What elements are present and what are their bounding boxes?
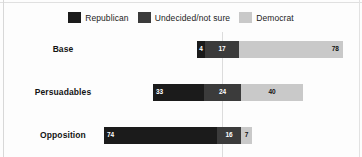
bar-value-base-undecided: 17 [218, 46, 225, 53]
bar-segment-base-democrat[interactable]: 78 [239, 41, 343, 58]
legend-swatch-republican [68, 12, 81, 23]
bar-value-persuadables-undecided: 24 [219, 89, 226, 96]
bar-segment-opposition-democrat[interactable]: 7 [241, 127, 252, 144]
legend-label-republican: Republican [85, 13, 129, 23]
bar-value-opposition-democrat: 7 [245, 132, 249, 139]
bar-value-opposition-undecided: 16 [225, 132, 232, 139]
plot-area: Base 4 17 78 Persuadables 33 [0, 30, 362, 157]
bar-value-base-democrat: 78 [332, 46, 339, 53]
row-label-opposition: Opposition [18, 130, 108, 140]
bar-segment-persuadables-undecided[interactable]: 24 [204, 84, 241, 101]
legend-label-democrat: Democrat [256, 13, 294, 23]
bar-segment-persuadables-republican[interactable]: 33 [153, 84, 204, 101]
page-edge-top [0, 2, 362, 3]
bar-segment-persuadables-democrat[interactable]: 40 [241, 84, 303, 101]
bar-persuadables: 33 24 40 [153, 84, 303, 101]
chart-row-opposition: Opposition 74 16 7 [0, 124, 362, 146]
bar-segment-base-undecided[interactable]: 17 [205, 41, 239, 58]
stacked-bar-chart: Republican Undecided/not sure Democrat B… [0, 0, 362, 157]
legend-item-democrat[interactable]: Democrat [239, 12, 294, 23]
legend-item-undecided[interactable]: Undecided/not sure [138, 12, 231, 23]
legend-label-undecided: Undecided/not sure [155, 13, 231, 23]
bar-segment-opposition-undecided[interactable]: 16 [217, 127, 241, 144]
bar-value-base-republican: 4 [199, 46, 203, 53]
bar-opposition: 74 16 7 [104, 127, 252, 144]
bar-value-persuadables-democrat: 40 [268, 89, 275, 96]
bar-base: 4 17 78 [197, 41, 343, 58]
row-label-base: Base [18, 44, 108, 54]
chart-legend: Republican Undecided/not sure Democrat [0, 12, 362, 23]
bar-value-opposition-republican: 74 [107, 132, 114, 139]
legend-swatch-democrat [239, 12, 252, 23]
legend-swatch-undecided [138, 12, 151, 23]
bar-segment-opposition-republican[interactable]: 74 [104, 127, 217, 144]
chart-row-base: Base 4 17 78 [0, 38, 362, 60]
bar-segment-base-republican[interactable]: 4 [197, 41, 205, 58]
chart-row-persuadables: Persuadables 33 24 40 [0, 81, 362, 103]
legend-item-republican[interactable]: Republican [68, 12, 129, 23]
bar-value-persuadables-republican: 33 [156, 89, 163, 96]
row-label-persuadables: Persuadables [18, 87, 108, 97]
